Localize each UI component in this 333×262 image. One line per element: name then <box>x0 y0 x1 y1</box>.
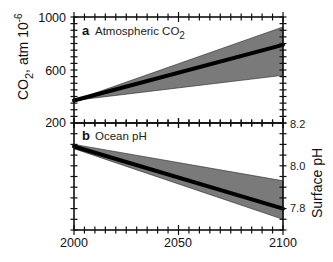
panel-a-co2: a Atmospheric CO2 200 600 1000 CO2, atm … <box>13 11 287 130</box>
co2-axis-title: CO2, atm 10-6 <box>13 13 35 100</box>
panel-b-title: Ocean pH <box>95 130 147 142</box>
panel-a-title: Atmospheric CO2 <box>95 25 185 41</box>
x-tick-label-2000: 2000 <box>60 236 88 250</box>
ph-axis-title: Surface pH <box>309 148 325 218</box>
y-tick-label-8.0: 8.0 <box>290 160 305 172</box>
panel-b-ph: b Ocean pH 8.2 8.0 7.8 Surface pH 2000 2… <box>60 118 325 250</box>
chart-figure: a Atmospheric CO2 200 600 1000 CO2, atm … <box>0 0 333 262</box>
panel-b-letter: b <box>82 128 90 143</box>
x-tick-label-2100: 2100 <box>269 236 297 250</box>
y-tick-label-200: 200 <box>45 116 66 130</box>
y-tick-label-8.2: 8.2 <box>290 118 305 130</box>
y-tick-label-7.8: 7.8 <box>290 202 305 214</box>
y-tick-label-600: 600 <box>45 64 66 78</box>
y-tick-label-1000: 1000 <box>38 11 66 25</box>
x-tick-label-2050: 2050 <box>164 236 192 250</box>
panel-a-letter: a <box>82 23 90 38</box>
